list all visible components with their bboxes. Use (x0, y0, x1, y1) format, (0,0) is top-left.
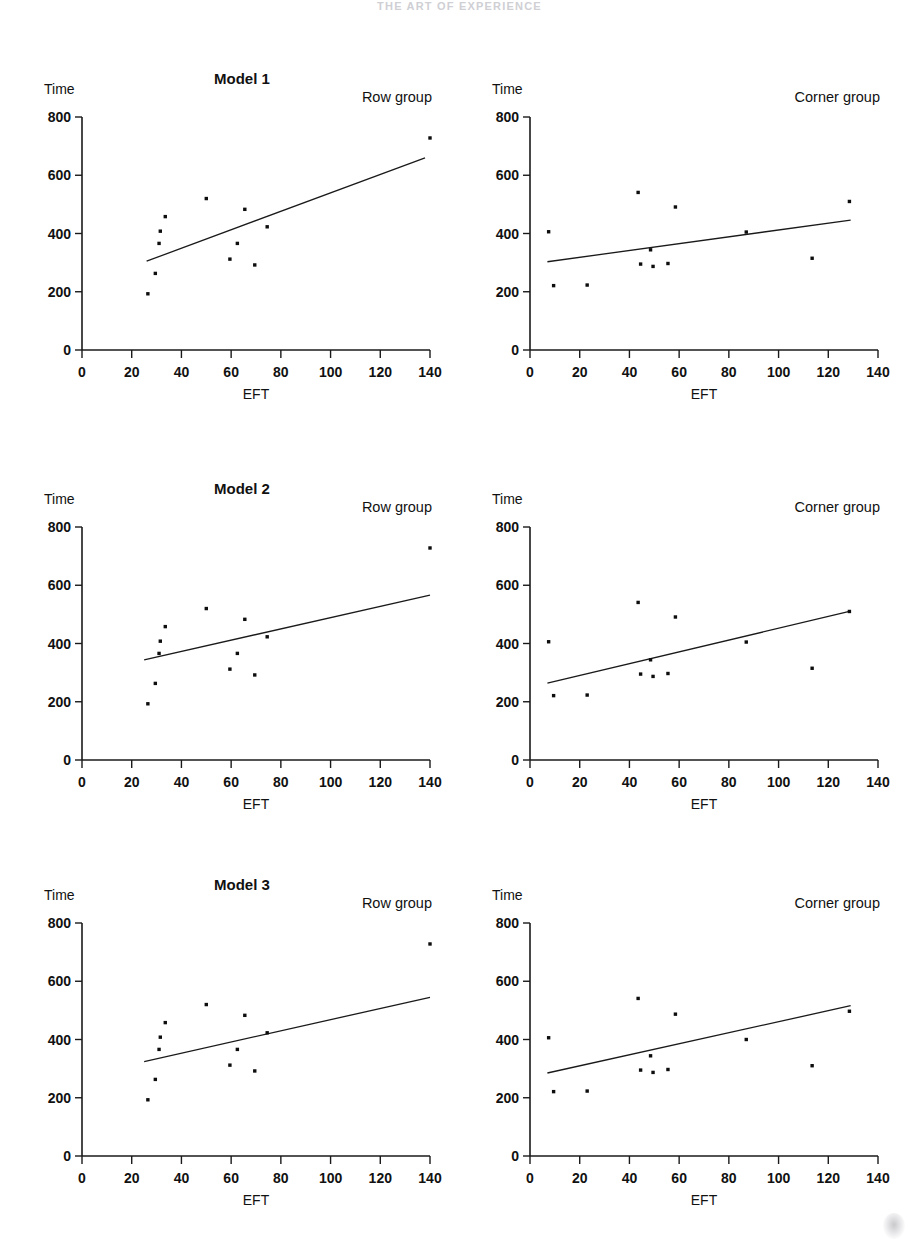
data-point (674, 1012, 677, 1015)
data-point (552, 1090, 555, 1093)
y-tick-label-0-model3-corner: 0 (511, 1148, 519, 1164)
x-tick-label-0-model1-corner: 0 (526, 364, 534, 380)
y-tick-label-800-model3-row: 800 (48, 915, 72, 931)
data-point (666, 1068, 669, 1071)
x-tick-label-0-model2-row: 0 (78, 774, 86, 790)
y-tick-label-800-model2-row: 800 (48, 519, 72, 535)
data-point (228, 1063, 231, 1066)
x-tick-label-60-model3-row: 60 (223, 1170, 239, 1186)
x-tick-label-20-model3-corner: 20 (572, 1170, 588, 1186)
y-tick-label-200-model3-row: 200 (48, 1090, 72, 1106)
x-tick-label-140-model2-row: 140 (418, 774, 442, 790)
data-point (585, 693, 588, 696)
y-tick-label-600-model2-row: 600 (48, 577, 72, 593)
x-tick-label-120-model3-row: 120 (369, 1170, 393, 1186)
data-point (636, 997, 639, 1000)
data-point (243, 1014, 246, 1017)
y-tick-label-0-model3-row: 0 (63, 1148, 71, 1164)
data-point (552, 284, 555, 287)
y-tick-label-0-model1-corner: 0 (511, 342, 519, 358)
scatter-plot-model3-corner: TimeCorner group800600400200002040608010… (470, 868, 910, 1218)
data-point (810, 667, 813, 670)
data-point (666, 262, 669, 265)
x-tick-label-100-model2-corner: 100 (767, 774, 791, 790)
x-tick-label-20-model1-row: 20 (124, 364, 140, 380)
x-tick-label-140-model3-corner: 140 (866, 1170, 890, 1186)
x-tick-label-100-model3-corner: 100 (767, 1170, 791, 1186)
data-point (146, 292, 149, 295)
group-label-model3-row: Row group (362, 895, 432, 911)
x-tick-label-80-model1-row: 80 (273, 364, 289, 380)
y-tick-label-0-model1-row: 0 (63, 342, 71, 358)
data-point (253, 673, 256, 676)
data-point (547, 230, 550, 233)
data-point (228, 667, 231, 670)
data-point (674, 205, 677, 208)
x-tick-label-100-model1-row: 100 (319, 364, 343, 380)
y-axis-title-model2-row: Time (44, 491, 75, 507)
data-point (265, 1031, 268, 1034)
group-label-model1-row: Row group (362, 89, 432, 105)
regression-line-model1-corner (547, 220, 850, 262)
x-tick-label-80-model2-row: 80 (273, 774, 289, 790)
y-tick-label-600-model3-row: 600 (48, 973, 72, 989)
data-point (674, 615, 677, 618)
x-tick-label-120-model2-row: 120 (369, 774, 393, 790)
x-tick-label-120-model1-row: 120 (369, 364, 393, 380)
scatter-panel-model3-row: TimeModel 3Row group80060040020000204060… (22, 868, 462, 1218)
y-tick-label-0-model2-corner: 0 (511, 752, 519, 768)
regression-line-model3-corner (547, 1006, 850, 1073)
data-point (649, 658, 652, 661)
regression-line-model3-row (144, 997, 430, 1061)
x-tick-label-140-model1-corner: 140 (866, 364, 890, 380)
data-point (649, 248, 652, 251)
x-tick-label-80-model3-row: 80 (273, 1170, 289, 1186)
y-tick-label-600-model1-row: 600 (48, 167, 72, 183)
x-tick-label-80-model3-corner: 80 (721, 1170, 737, 1186)
data-point (236, 1048, 239, 1051)
data-point (154, 272, 157, 275)
data-point (639, 1068, 642, 1071)
y-tick-label-400-model1-corner: 400 (496, 226, 520, 242)
data-point (205, 1003, 208, 1006)
y-tick-label-200-model2-row: 200 (48, 694, 72, 710)
scatter-panel-model1-row: TimeModel 1Row group80060040020000204060… (22, 62, 462, 412)
group-label-model3-corner: Corner group (795, 895, 880, 911)
x-tick-label-20-model2-corner: 20 (572, 774, 588, 790)
data-point (848, 200, 851, 203)
panel-title-model3-row: Model 3 (214, 876, 270, 893)
data-point (146, 1098, 149, 1101)
y-tick-label-400-model3-corner: 400 (496, 1032, 520, 1048)
data-point (547, 640, 550, 643)
y-tick-label-400-model2-corner: 400 (496, 636, 520, 652)
x-axis-title-model2-corner: EFT (691, 796, 718, 812)
x-tick-label-60-model2-row: 60 (223, 774, 239, 790)
y-tick-label-200-model2-corner: 200 (496, 694, 520, 710)
data-point (154, 1078, 157, 1081)
data-point (651, 675, 654, 678)
x-tick-label-60-model2-corner: 60 (671, 774, 687, 790)
y-tick-label-800-model3-corner: 800 (496, 915, 520, 931)
group-label-model1-corner: Corner group (795, 89, 880, 105)
x-tick-label-140-model2-corner: 140 (866, 774, 890, 790)
data-point (649, 1054, 652, 1057)
group-label-model2-row: Row group (362, 499, 432, 515)
regression-line-model2-row (144, 595, 430, 660)
data-point (265, 225, 268, 228)
x-tick-label-40-model1-row: 40 (174, 364, 190, 380)
data-point (253, 263, 256, 266)
y-tick-label-600-model3-corner: 600 (496, 973, 520, 989)
scatter-plot-model1-row: TimeModel 1Row group80060040020000204060… (22, 62, 462, 412)
x-tick-label-60-model1-corner: 60 (671, 364, 687, 380)
data-point (810, 257, 813, 260)
x-tick-label-60-model3-corner: 60 (671, 1170, 687, 1186)
y-tick-label-800-model1-row: 800 (48, 109, 72, 125)
x-tick-label-0-model2-corner: 0 (526, 774, 534, 790)
data-point (745, 1038, 748, 1041)
data-point (205, 607, 208, 610)
y-tick-label-600-model2-corner: 600 (496, 577, 520, 593)
x-axis-title-model3-corner: EFT (691, 1192, 718, 1208)
data-point (636, 601, 639, 604)
x-tick-label-40-model3-corner: 40 (622, 1170, 638, 1186)
panel-title-model1-row: Model 1 (214, 70, 270, 87)
